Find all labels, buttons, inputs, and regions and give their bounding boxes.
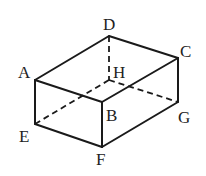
label-F: F: [96, 150, 105, 169]
hidden-edge-EH: [35, 80, 109, 124]
label-D: D: [103, 15, 115, 34]
edge-DA: [35, 36, 109, 80]
label-E: E: [19, 127, 29, 146]
label-H: H: [113, 63, 125, 82]
label-B: B: [106, 106, 117, 125]
label-A: A: [18, 63, 31, 82]
label-C: C: [180, 42, 191, 61]
edge-CD: [109, 36, 178, 58]
edge-EF: [35, 124, 102, 147]
rectangular-prism-diagram: D C A H B G E F: [0, 0, 206, 176]
label-G: G: [178, 108, 190, 127]
